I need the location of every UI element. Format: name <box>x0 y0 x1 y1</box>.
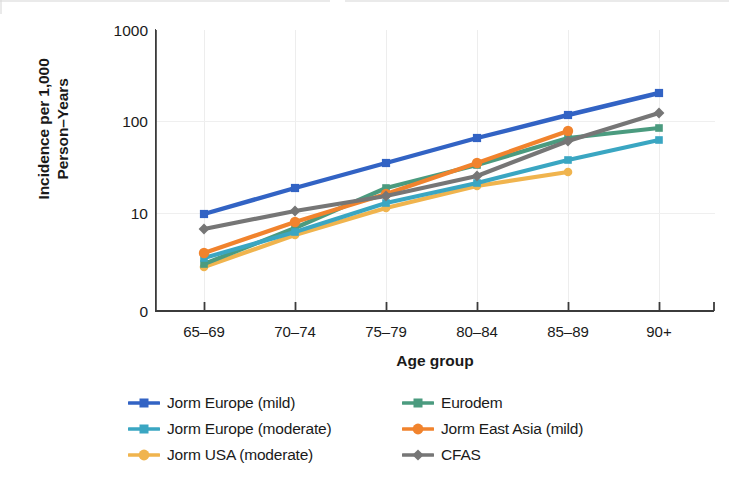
legend-marker-circle-icon <box>128 448 160 462</box>
legend-label: Jorm Europe (moderate) <box>167 420 331 438</box>
x-tick-65-69: 65–69 <box>183 323 225 340</box>
legend-marker-square-icon <box>128 422 160 436</box>
legend-item-jorm-europe-moderate[interactable]: Jorm Europe (moderate) <box>128 416 390 442</box>
legend-item-jorm-usa-moderate[interactable]: Jorm USA (moderate) <box>128 442 390 468</box>
chart-figure: Incidence per 1,000Person–Years 1000 100… <box>0 0 729 495</box>
legend-marker-square-icon <box>128 396 160 410</box>
x-tick-80-84: 80–84 <box>456 323 498 340</box>
x-tick-75-79: 75–79 <box>365 323 407 340</box>
legend-marker-square-icon <box>402 396 434 410</box>
legend-item-eurodem[interactable]: Eurodem <box>402 390 664 416</box>
x-tick-85-89: 85–89 <box>547 323 589 340</box>
legend-item-jorm-east-asia-mild[interactable]: Jorm East Asia (mild) <box>402 416 664 442</box>
legend-label: Jorm East Asia (mild) <box>441 420 583 438</box>
legend-item-jorm-europe-mild[interactable]: Jorm Europe (mild) <box>128 390 390 416</box>
x-axis-label: Age group <box>155 352 715 370</box>
legend-label: CFAS <box>441 446 481 464</box>
x-tick-70-74: 70–74 <box>274 323 316 340</box>
legend-marker-diamond-icon <box>402 448 434 462</box>
x-tick-90plus: 90+ <box>646 323 671 340</box>
legend-label: Jorm Europe (mild) <box>167 394 295 412</box>
legend-item-cfas[interactable]: CFAS <box>402 442 664 468</box>
legend-marker-circle-icon <box>402 422 434 436</box>
legend-label: Eurodem <box>441 394 503 412</box>
legend-label: Jorm USA (moderate) <box>167 446 313 464</box>
chart-legend: Jorm Europe (mild) Eurodem Jorm Europe (… <box>128 390 688 468</box>
